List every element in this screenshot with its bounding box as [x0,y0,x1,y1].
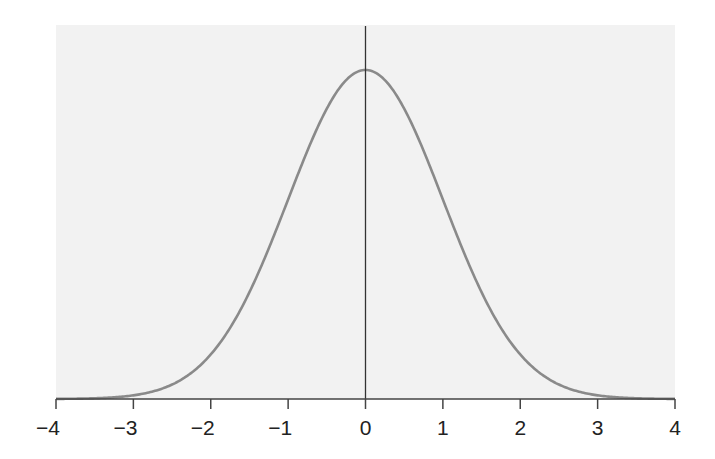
x-tick-label: −1 [268,416,292,439]
x-tick-label: 3 [592,416,604,439]
normal-distribution-chart: −4−3−2−101234 [0,0,715,459]
x-tick-label: −2 [191,416,215,439]
x-axis-tick-labels: −4−3−2−101234 [36,416,681,439]
x-tick-label: 2 [514,416,526,439]
x-axis-ticks [56,399,675,409]
x-tick-label: 4 [669,416,681,439]
x-tick-label: −4 [36,416,60,439]
x-tick-label: 0 [360,416,372,439]
x-tick-label: 1 [437,416,449,439]
x-tick-label: −3 [113,416,137,439]
